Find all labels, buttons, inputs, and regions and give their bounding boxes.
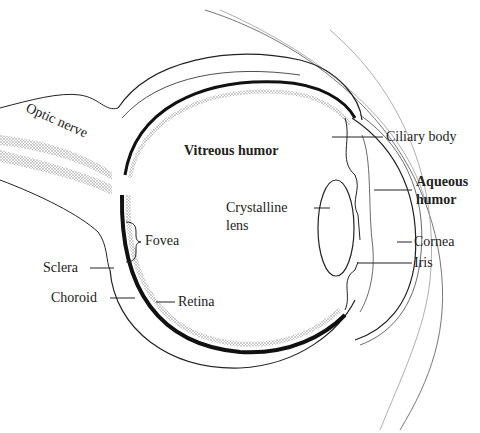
- label-retina: Retina: [178, 294, 215, 310]
- label-choroid: Choroid: [51, 290, 97, 306]
- label-crystalline-lens-line1: Crystalline: [226, 200, 287, 216]
- label-ciliary-body: Ciliary body: [386, 129, 456, 145]
- label-sclera: Sclera: [43, 260, 78, 276]
- eye-diagram: Optic nerve Vitreous humor Ciliary body …: [0, 0, 480, 433]
- label-aqueous-humor-line1: Aqueous: [416, 174, 468, 190]
- eye-drawing: [0, 0, 480, 433]
- label-vitreous-humor: Vitreous humor: [184, 143, 279, 159]
- label-fovea: Fovea: [145, 233, 179, 249]
- label-iris: Iris: [414, 255, 433, 271]
- label-crystalline-lens-line2: lens: [226, 218, 249, 234]
- label-cornea: Cornea: [414, 234, 454, 250]
- label-aqueous-humor-line2: humor: [416, 192, 456, 208]
